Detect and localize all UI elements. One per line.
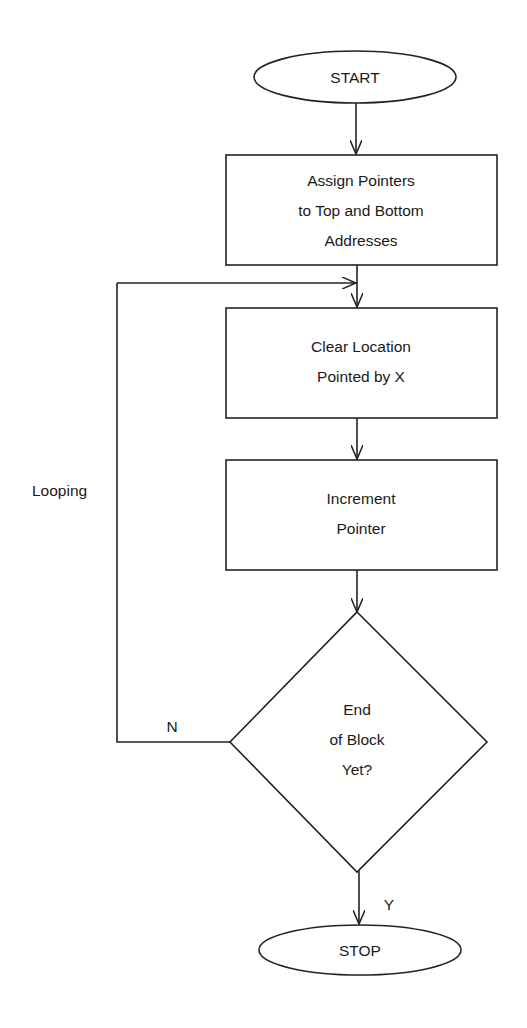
increment-line-1: Increment bbox=[327, 490, 397, 507]
end-of-block-decision: End of Block Yet? bbox=[230, 612, 487, 872]
assign-pointers-process: Assign Pointers to Top and Bottom Addres… bbox=[226, 155, 497, 265]
start-label: START bbox=[330, 69, 380, 86]
clear-line-1: Clear Location bbox=[311, 338, 411, 355]
clear-location-process: Clear Location Pointed by X bbox=[226, 308, 497, 418]
clear-line-2: Pointed by X bbox=[317, 368, 406, 385]
yes-branch-label: Y bbox=[384, 896, 394, 913]
looping-label: Looping bbox=[32, 482, 87, 499]
stop-terminal: STOP bbox=[259, 925, 461, 975]
no-branch-label: N bbox=[166, 718, 177, 735]
assign-line-2: to Top and Bottom bbox=[298, 202, 424, 219]
start-terminal: START bbox=[254, 51, 456, 103]
decision-line-1: End bbox=[343, 701, 371, 718]
stop-label: STOP bbox=[339, 942, 381, 959]
assign-line-1: Assign Pointers bbox=[307, 172, 415, 189]
assign-line-3: Addresses bbox=[324, 232, 397, 249]
decision-line-3: Yet? bbox=[342, 761, 373, 778]
increment-pointer-process: Increment Pointer bbox=[226, 460, 497, 570]
increment-line-2: Pointer bbox=[336, 520, 385, 537]
flowchart-canvas: START Assign Pointers to Top and Bottom … bbox=[0, 0, 527, 1028]
no-branch-loop-line bbox=[117, 283, 230, 742]
decision-line-2: of Block bbox=[329, 731, 384, 748]
